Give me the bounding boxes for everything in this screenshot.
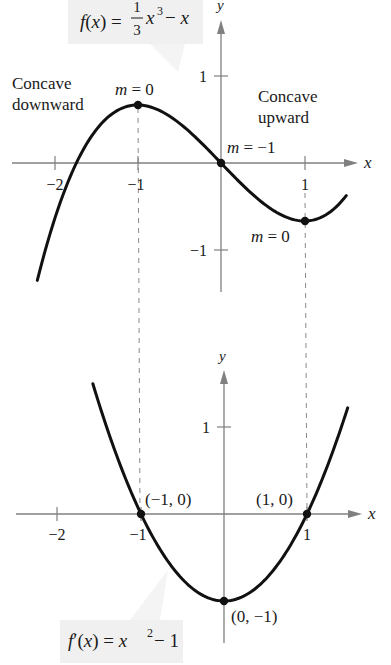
bottom-label-suffix: − 1 [154, 630, 179, 651]
dashed-guides [138, 108, 307, 514]
bottom-label-text: f′(x) = x [68, 630, 128, 652]
top-label-text: f(x) = [80, 11, 122, 33]
top-label-denominator: 3 [133, 22, 141, 38]
slope-label-min: m = 0 [251, 227, 290, 246]
top-label-pointer [150, 44, 185, 72]
bottom-x-arrow-icon [348, 510, 362, 518]
top-x-tick-label: −2 [46, 176, 63, 193]
slope-label-inflection: m = −1 [227, 138, 275, 157]
point-root-neg1 [137, 510, 145, 518]
concave-upward-line1: Concave [258, 87, 317, 106]
point-root-1 [303, 510, 311, 518]
top-y-arrow-icon [217, 20, 225, 34]
top-label-numerator: 1 [133, 0, 141, 15]
root-1-label: (1, 0) [256, 490, 293, 509]
top-y-axis-label: y [215, 0, 224, 13]
top-x-axis-label: x [363, 153, 372, 172]
top-x-tick-label: 1 [301, 176, 309, 193]
concave-upward-line2: upward [258, 108, 309, 127]
bottom-y-arrow-icon [220, 370, 228, 384]
top-y-tick-label: 1 [199, 68, 207, 85]
slope-label-max: m = 0 [115, 80, 154, 99]
top-y-tick-label: −1 [190, 242, 207, 259]
concave-downward-line1: Concave [12, 74, 71, 93]
bottom-x-tick-label: 1 [303, 526, 311, 543]
bottom-x-tick-label: −2 [48, 526, 65, 543]
bottom-x-axis-label: x [367, 504, 376, 523]
root-neg1-label: (−1, 0) [145, 490, 191, 509]
top-label-exp: 3 [157, 4, 163, 18]
figure: f(x) = 1 3 x 3 − x f′(x) = x 2 − 1 x y [0, 0, 391, 665]
top-function-label: f(x) = 1 3 x 3 − x [68, 0, 203, 72]
bottom-function-label: f′(x) = x 2 − 1 [60, 570, 183, 663]
bottom-label-exp: 2 [147, 626, 153, 640]
parabola-curve [93, 384, 348, 601]
point-inflection [217, 159, 225, 167]
vertex-label: (0, −1) [231, 607, 277, 626]
bottom-y-tick-label: 1 [202, 419, 210, 436]
bottom-x-tick-label: −1 [129, 526, 146, 543]
point-local-max [134, 101, 142, 109]
top-label-var: x [145, 7, 155, 28]
point-vertex [220, 597, 228, 605]
bottom-label-pointer [130, 570, 168, 620]
point-local-min [301, 217, 309, 225]
guide-x-1 [305, 193, 307, 514]
bottom-graph: x y −2 −1 1 1 (−1, 0) (1, 0) (0, −1) [16, 348, 376, 643]
top-label-suffix: − x [165, 7, 189, 28]
top-x-arrow-icon [344, 159, 358, 167]
bottom-y-axis-label: y [217, 348, 226, 364]
concave-downward-line2: downward [12, 95, 84, 114]
top-x-tick-label: −1 [127, 176, 144, 193]
